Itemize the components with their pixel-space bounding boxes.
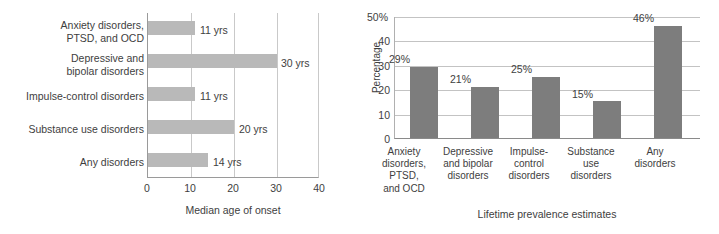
right-category-label-line: disorders bbox=[499, 170, 559, 182]
right-y-tick: 10 bbox=[360, 109, 390, 121]
right-gridline bbox=[395, 17, 700, 18]
right-y-tick: 50% bbox=[358, 11, 388, 23]
left-bar-value: 30 yrs bbox=[281, 57, 310, 69]
right-bar bbox=[532, 77, 560, 138]
right-category-label-line: disorders bbox=[436, 170, 500, 182]
right-bar-value: 29% bbox=[389, 53, 410, 65]
right-category-label-line: Anxiety bbox=[373, 146, 435, 158]
right-x-axis-label: Lifetime prevalence estimates bbox=[394, 208, 700, 220]
right-y-tick: 40 bbox=[360, 35, 390, 47]
left-category-label: Substance use disorders bbox=[8, 123, 144, 136]
left-category-label: Any disorders bbox=[8, 156, 144, 169]
right-bar bbox=[654, 26, 682, 138]
right-category-label-line: disorders bbox=[560, 170, 622, 182]
left-bar-value: 11 yrs bbox=[200, 90, 228, 102]
right-category-label-line: and OCD bbox=[373, 183, 435, 195]
left-bar-value: 11 yrs bbox=[200, 24, 228, 36]
median-age-of-onset-chart: Anxiety disorders, PTSD, and OCD Depress… bbox=[0, 0, 360, 234]
right-category-label-line: disorders, bbox=[373, 158, 435, 170]
left-gridline bbox=[234, 13, 235, 177]
left-category-label-line: Any disorders bbox=[8, 156, 144, 169]
right-category-label-line: PTSD, bbox=[373, 170, 435, 182]
right-category-label-line: Depressive bbox=[436, 146, 500, 158]
right-bar-value: 25% bbox=[511, 63, 532, 75]
left-bar bbox=[148, 153, 208, 167]
lifetime-prevalence-chart: Percentage 50% 40 30 20 10 0 29% 21% 25%… bbox=[360, 0, 719, 234]
right-category-label-line: and bipolar bbox=[436, 158, 500, 170]
left-x-tick: 0 bbox=[132, 182, 162, 194]
right-category-label: Substance use disorders bbox=[560, 146, 622, 183]
left-bar bbox=[148, 21, 195, 35]
left-bar-value: 20 yrs bbox=[239, 123, 268, 135]
left-category-label-line: PTSD, and OCD bbox=[8, 32, 144, 45]
left-x-tick: 40 bbox=[304, 182, 334, 194]
right-category-label: Any disorders bbox=[622, 146, 688, 170]
right-category-label-line: use bbox=[560, 158, 622, 170]
left-x-tick: 10 bbox=[175, 182, 205, 194]
right-bar bbox=[471, 87, 499, 138]
left-category-label: Impulse-control disorders bbox=[8, 90, 144, 103]
right-category-label: Depressive and bipolar disorders bbox=[436, 146, 500, 183]
right-bar bbox=[593, 101, 621, 138]
left-plot-area bbox=[147, 13, 319, 178]
left-x-axis-label: Median age of onset bbox=[147, 204, 319, 216]
left-category-label-line: Anxiety disorders, bbox=[8, 19, 144, 32]
right-plot-area bbox=[394, 17, 700, 139]
right-y-tick: 20 bbox=[360, 84, 390, 96]
right-bar bbox=[410, 67, 438, 138]
right-category-label: Impulse- control disorders bbox=[499, 146, 559, 183]
left-gridline bbox=[277, 13, 278, 177]
right-category-label-line: Impulse- bbox=[499, 146, 559, 158]
left-bar bbox=[148, 54, 277, 68]
left-x-tick: 30 bbox=[261, 182, 291, 194]
left-x-tick: 20 bbox=[218, 182, 248, 194]
right-y-tick: 0 bbox=[360, 133, 390, 145]
right-y-tick: 30 bbox=[360, 60, 390, 72]
right-category-label-line: control bbox=[499, 158, 559, 170]
left-bar-value: 14 yrs bbox=[213, 156, 242, 168]
right-bar-value: 21% bbox=[450, 73, 471, 85]
right-category-label-line: Substance bbox=[560, 146, 622, 158]
left-bar bbox=[148, 87, 195, 101]
left-category-label-line: Impulse-control disorders bbox=[8, 90, 144, 103]
right-bar-value: 46% bbox=[633, 12, 654, 24]
right-category-label-line: disorders bbox=[622, 158, 688, 170]
left-bar bbox=[148, 120, 234, 134]
right-category-label-line: Any bbox=[622, 146, 688, 158]
right-bar-value: 15% bbox=[572, 88, 593, 100]
left-category-label-line: Substance use disorders bbox=[8, 123, 144, 136]
left-category-label: Anxiety disorders, PTSD, and OCD bbox=[8, 19, 144, 44]
right-category-label: Anxiety disorders, PTSD, and OCD bbox=[373, 146, 435, 195]
left-category-label: Depressive and bipolar disorders bbox=[8, 52, 144, 77]
left-category-label-line: Depressive and bbox=[8, 52, 144, 65]
left-category-label-line: bipolar disorders bbox=[8, 65, 144, 78]
